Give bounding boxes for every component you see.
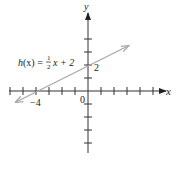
func-paren: (x) = [23, 57, 43, 69]
func-tail: x + 2 [52, 57, 74, 68]
y-axis-label: y [83, 1, 89, 12]
fraction-denominator: 2 [47, 63, 51, 71]
x-intercept-label: −4 [30, 97, 41, 108]
origin-label: 0 [80, 94, 85, 105]
y-intercept-label: 2 [94, 62, 99, 73]
function-line [15, 46, 129, 103]
fraction-numerator: 1 [47, 54, 51, 62]
x-axis-label: x [165, 85, 171, 97]
svg-text:h(x) =: h(x) = [18, 57, 43, 69]
function-label: h(x) = 1 2 x + 2 [18, 54, 74, 71]
coordinate-plane: y x 0 −4 2 h(x) = 1 2 x + 2 [0, 0, 179, 169]
